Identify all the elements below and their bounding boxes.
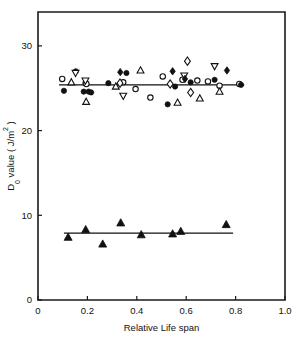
data-point (177, 227, 185, 234)
data-point (60, 76, 65, 81)
series-open-triangle-up (68, 67, 223, 105)
data-point (83, 98, 90, 104)
data-point (174, 99, 181, 105)
data-point (224, 67, 229, 74)
data-point (81, 89, 86, 94)
y-tick-label: 20 (21, 125, 32, 136)
data-point (124, 70, 129, 75)
data-point (238, 82, 243, 87)
x-tick-label: 0.8 (229, 305, 242, 316)
y-tick-label: 30 (21, 40, 32, 51)
plot-frame (38, 12, 285, 300)
data-point (68, 79, 75, 85)
data-point (72, 70, 79, 76)
data-point (120, 93, 127, 99)
data-point (212, 77, 217, 82)
data-point (106, 81, 111, 86)
data-point (99, 240, 107, 247)
data-point (118, 68, 123, 75)
regression-lines (59, 85, 244, 233)
data-point (61, 88, 66, 93)
data-point (216, 88, 223, 94)
data-point (133, 86, 138, 91)
x-tick-label: 0.2 (81, 305, 94, 316)
x-tick-labels: 00.20.40.60.81.0 (35, 305, 291, 316)
axis-box (38, 12, 285, 300)
x-tick-label: 1.0 (278, 305, 291, 316)
data-point (196, 95, 203, 101)
y-tick-label: 0 (27, 294, 32, 305)
data-point (188, 88, 194, 96)
data-point (137, 67, 144, 73)
data-point (195, 78, 200, 83)
data-point (222, 220, 230, 227)
data-point (188, 80, 193, 85)
data-point (148, 95, 153, 100)
x-tick-label: 0.6 (180, 305, 193, 316)
y-axis-title: D0 value ( J/m2 ) (2, 121, 21, 191)
x-axis-title: Relative Life span (124, 322, 200, 333)
data-point (184, 57, 190, 65)
scatter-plot-figure: 00.20.40.60.81.0 0102030 Relative Life s… (0, 0, 298, 341)
data-point (170, 68, 175, 75)
data-point (137, 231, 145, 238)
data-point (89, 90, 94, 95)
data-point (205, 79, 210, 84)
series-filled-circle (61, 69, 243, 107)
data-point (64, 233, 72, 240)
data-point (117, 219, 125, 226)
plot-canvas: 00.20.40.60.81.0 0102030 Relative Life s… (0, 0, 298, 341)
data-point (172, 84, 177, 89)
data-point (160, 74, 165, 79)
y-tick-label: 10 (21, 210, 32, 221)
data-point (211, 64, 218, 70)
data-point (82, 225, 90, 232)
y-tick-labels: 0102030 (21, 40, 32, 305)
x-tick-label: 0 (35, 305, 40, 316)
data-point (165, 102, 170, 107)
data-points (60, 57, 244, 247)
x-tick-label: 0.4 (130, 305, 143, 316)
